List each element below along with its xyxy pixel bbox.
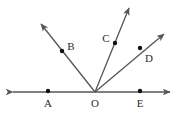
- point-label-O: O: [91, 98, 99, 109]
- geometry-figure: A B C D E O: [0, 0, 175, 115]
- point-label-D: D: [145, 53, 153, 64]
- point-dot-A: [46, 89, 50, 93]
- point-dot-D: [138, 46, 142, 50]
- point-label-C: C: [102, 33, 109, 44]
- point-label-A: A: [44, 98, 52, 109]
- point-dot-B: [60, 49, 64, 53]
- point-label-E: E: [137, 98, 144, 109]
- point-label-B: B: [67, 41, 74, 52]
- ray-OC: [95, 8, 129, 92]
- point-dot-C: [113, 41, 117, 45]
- ray-OB: [41, 24, 95, 92]
- point-dot-E: [138, 89, 142, 93]
